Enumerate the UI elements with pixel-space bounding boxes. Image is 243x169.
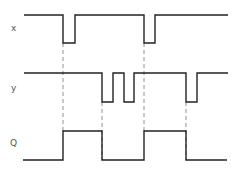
waveform-y [24,73,228,102]
waveforms [23,15,228,160]
signal-label-x: x [11,24,16,33]
waveform-canvas [0,0,243,169]
timing-diagram: x y Q [0,0,243,169]
waveform-q [23,131,227,160]
signal-label-y: y [11,84,16,93]
signal-label-q: Q [10,139,17,148]
waveform-x [24,15,228,43]
